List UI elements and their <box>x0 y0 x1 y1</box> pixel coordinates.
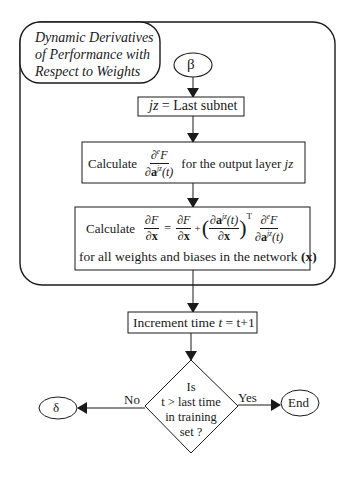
calc-weights-scope: for all weights and biases in the networ… <box>79 250 317 264</box>
term2-fraction: ∂ajz(t) ∂x <box>209 213 239 242</box>
beta-label: β <box>187 57 195 72</box>
init-text: jz = Last subnet <box>149 99 237 113</box>
calc-weights-equation: Calculate ∂F ∂x = ∂F ∂x + ( ∂ajz(t) ∂x )… <box>86 210 285 246</box>
delta-label: δ <box>53 401 59 414</box>
lhs-fraction: ∂F ∂x <box>144 214 159 242</box>
increment-text: Increment time t = t+1 <box>133 316 255 330</box>
title-line-1: Dynamic Derivatives <box>35 29 154 46</box>
init-rhs: Last subnet <box>173 98 237 113</box>
group-title: Dynamic Derivatives of Performance with … <box>35 29 154 80</box>
calc-output-prefix: Calculate <box>88 157 137 170</box>
no-label: No <box>124 393 140 406</box>
decision-text: Is t > last time in training set ? <box>151 380 231 440</box>
calc-weights-prefix: Calculate <box>86 222 135 235</box>
yes-label: Yes <box>238 391 257 404</box>
calc-output-suffix: for the output layer <box>181 157 281 170</box>
output-derivative-fraction: ∂eF ∂ajz(t) <box>145 148 173 178</box>
init-lhs: jz <box>149 98 158 113</box>
term3-fraction: ∂eF ∂ajz(t) <box>255 213 283 243</box>
calc-output-layer-var: jz <box>285 157 294 170</box>
title-line-2: of Performance with <box>35 46 154 63</box>
term1-fraction: ∂F ∂x <box>176 214 191 242</box>
init-op: = <box>162 98 170 113</box>
title-line-3: Respect to Weights <box>35 63 154 80</box>
calc-output-text: Calculate ∂eF ∂ajz(t) for the output lay… <box>88 146 293 180</box>
end-label: End <box>288 396 309 409</box>
